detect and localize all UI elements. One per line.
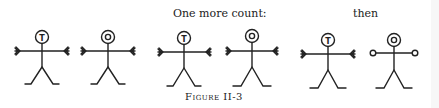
stick-figure-t-3: T xyxy=(158,32,211,87)
svg-text:T: T xyxy=(325,37,331,46)
svg-text:T: T xyxy=(39,34,45,43)
stick-figures-diagram: T T T xyxy=(0,0,439,108)
stick-figure-t-5: T xyxy=(301,34,355,89)
page-edge xyxy=(431,0,439,108)
stick-figure-o-6-open-hands xyxy=(370,34,418,89)
svg-text:T: T xyxy=(181,35,187,44)
stick-figure-o-2 xyxy=(81,31,135,85)
stick-figure-t-1: T xyxy=(15,31,69,85)
stick-figure-o-4 xyxy=(226,30,278,87)
